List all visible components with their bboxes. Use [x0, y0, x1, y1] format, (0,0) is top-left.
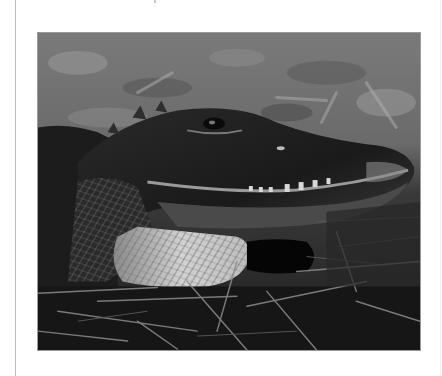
alligator-photo: [37, 32, 421, 351]
left-margin-rule: [15, 0, 16, 376]
photograph-icon: [38, 33, 420, 350]
page-mark: [154, 0, 156, 3]
right-margin-rule: [440, 0, 441, 376]
